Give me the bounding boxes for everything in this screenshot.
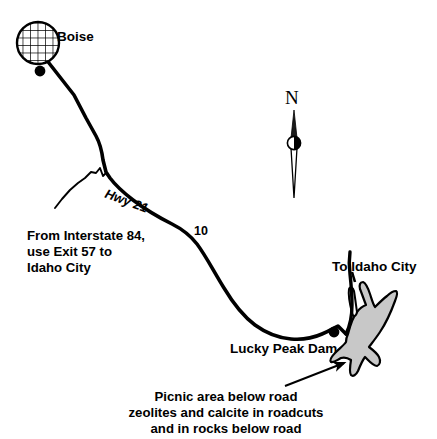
- north-arrow-needle: [287, 110, 300, 198]
- boise-city-hatched-circle: [17, 22, 59, 64]
- boise-road-origin-dot: [35, 66, 46, 77]
- label-lucky-peak-dam: Lucky Peak Dam: [230, 341, 337, 357]
- map-graphics: [0, 0, 437, 439]
- label-mile-marker: 10: [194, 224, 208, 239]
- label-interstate-directions: From Interstate 84, use Exit 57 to Idaho…: [27, 228, 145, 276]
- lucky-peak-dam-dot: [329, 327, 340, 338]
- label-boise: Boise: [57, 29, 94, 45]
- label-to-idaho-city: To Idaho City: [332, 259, 417, 275]
- location-map: Boise Hwy 21 10 From Interstate 84, use …: [0, 0, 437, 439]
- label-north: N: [285, 86, 299, 109]
- side-loop-road: [55, 168, 110, 208]
- label-picnic-note: Picnic area below road zeolites and calc…: [101, 389, 351, 437]
- picnic-area-arrow: [285, 363, 344, 386]
- highway-21-route: [38, 49, 346, 339]
